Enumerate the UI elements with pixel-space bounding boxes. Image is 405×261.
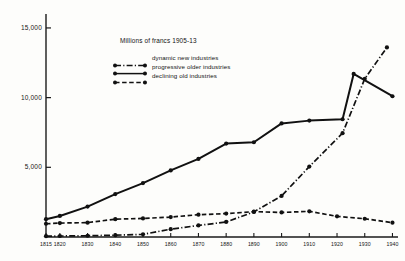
legend-label: progressive older industries	[152, 63, 230, 70]
series-layer	[44, 45, 395, 238]
x-tick-label: 1930	[353, 241, 377, 247]
legend-label: declining old industries	[152, 72, 217, 79]
x-tick-label: 1920	[325, 241, 349, 247]
series-1	[44, 72, 395, 221]
legend-key-icon	[112, 64, 148, 71]
tick-marks	[46, 28, 392, 237]
y-tick-label: 10,000	[0, 94, 42, 101]
x-tick-label: 1840	[103, 241, 127, 247]
y-tick-label: 15,000	[0, 24, 42, 31]
x-tick-label: 1870	[186, 241, 210, 247]
x-tick-label: 1880	[214, 241, 238, 247]
x-tick-label: 1940	[380, 241, 404, 247]
x-tick-label: 1900	[270, 241, 294, 247]
x-tick-label: 1820	[48, 241, 72, 247]
plot-area	[0, 0, 405, 261]
chart-title: Millions of francs 1905-13	[120, 37, 197, 44]
x-tick-label: 1850	[131, 241, 155, 247]
x-tick-label: 1830	[76, 241, 100, 247]
legend-key-icon	[112, 72, 148, 79]
x-tick-label: 1860	[159, 241, 183, 247]
x-tick-label: 1890	[242, 241, 266, 247]
legend-key-icon	[112, 55, 148, 62]
chart-figure: 5,00010,00015,000 1815182018301840185018…	[0, 0, 405, 261]
x-tick-label: 1910	[297, 241, 321, 247]
y-tick-label: 5,000	[0, 163, 42, 170]
legend-label: dynamic new industries	[152, 54, 219, 61]
